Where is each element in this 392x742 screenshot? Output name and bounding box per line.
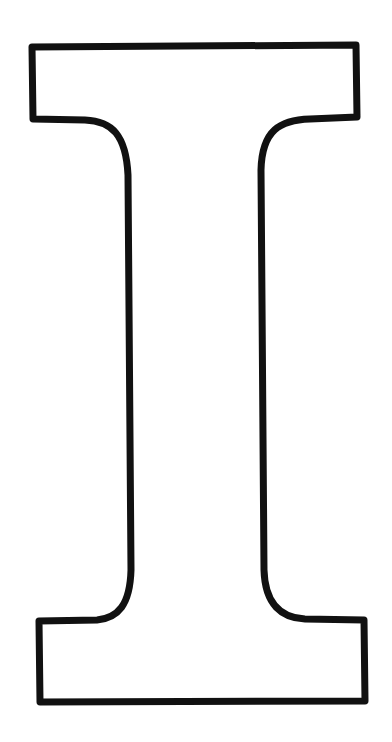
letter-i-shape (32, 45, 365, 702)
letter-i-outline (0, 0, 392, 742)
